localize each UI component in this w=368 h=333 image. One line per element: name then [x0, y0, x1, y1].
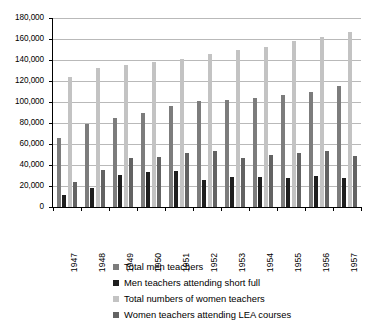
bar-group-1957 [333, 18, 361, 207]
y-axis: 020,00040,00060,00080,000100,000120,0001… [0, 12, 48, 208]
bar [292, 41, 296, 207]
y-axis-tick-label: 40,000 [20, 161, 44, 169]
x-axis-tick-label: 1947 [70, 253, 79, 272]
y-axis-tick-label: 80,000 [20, 119, 44, 127]
bar-group-1948 [81, 18, 109, 207]
y-axis-tick-label: 140,000 [15, 56, 44, 64]
bar [253, 98, 257, 207]
bar [348, 32, 352, 207]
bar [314, 176, 318, 207]
bar [342, 178, 346, 207]
bar [90, 188, 94, 207]
bar [57, 138, 61, 207]
bar [202, 180, 206, 207]
legend-swatch-women-lea-courses [113, 312, 119, 318]
bar [62, 195, 66, 207]
bar [152, 62, 156, 207]
legend-item[interactable]: Total numbers of women teachers [113, 291, 363, 307]
bar-group-1947 [53, 18, 81, 207]
bar [325, 151, 329, 207]
legend-item[interactable]: Women teachers attending LEA courses [113, 307, 363, 323]
y-axis-tick-label: 60,000 [20, 140, 44, 148]
bar [337, 86, 341, 207]
bar-group-1953 [221, 18, 249, 207]
legend-label: Women teachers attending LEA courses [124, 310, 291, 320]
bar [320, 37, 324, 207]
bar [146, 172, 150, 207]
bar [73, 182, 77, 207]
bar-group-1949 [109, 18, 137, 207]
x-axis: 1947194819491950195119521953195419551956… [52, 209, 360, 255]
bar [281, 95, 285, 207]
x-axis-tick [361, 207, 362, 211]
bar [230, 177, 234, 207]
bar-group-1952 [193, 18, 221, 207]
x-axis-tick-label: 1948 [98, 253, 107, 272]
legend-swatch-total-women-teachers [113, 296, 119, 302]
bar [185, 153, 189, 207]
bars-layer [53, 18, 361, 207]
bar-group-1954 [249, 18, 277, 207]
y-axis-tick-label: 100,000 [15, 98, 44, 106]
bar [286, 178, 290, 207]
bar [124, 65, 128, 207]
legend-label: Total numbers of women teachers [124, 294, 265, 304]
y-axis-tick-label: 0 [40, 203, 44, 211]
bar [174, 171, 178, 207]
bar [213, 151, 217, 207]
bar [197, 101, 201, 207]
bar [236, 50, 240, 208]
bar [208, 54, 212, 207]
chart-legend: Total men teachersMen teachers attending… [113, 259, 363, 323]
bar [241, 158, 245, 207]
legend-swatch-total-men-teachers [113, 264, 119, 270]
bar [118, 175, 122, 207]
bar [353, 156, 357, 207]
bar-group-1950 [137, 18, 165, 207]
legend-label: Total men teachers [124, 262, 203, 272]
bar [68, 77, 72, 207]
bar [129, 158, 133, 207]
bar [113, 118, 117, 207]
bar [180, 59, 184, 207]
y-axis-tick-label: 20,000 [20, 182, 44, 190]
bar [258, 177, 262, 207]
legend-swatch-men-short-full [113, 280, 119, 286]
bar [157, 157, 161, 207]
plot-wrapper: 020,00040,00060,00080,000100,000120,0001… [0, 0, 368, 212]
bar [169, 106, 173, 207]
bar [141, 113, 145, 208]
y-axis-tick-label: 180,000 [15, 14, 44, 22]
bar [96, 68, 100, 207]
bar [309, 92, 313, 208]
bar [101, 170, 105, 207]
y-axis-tick-label: 160,000 [15, 35, 44, 43]
bar [297, 153, 301, 207]
bar [264, 47, 268, 207]
bar-group-1951 [165, 18, 193, 207]
bar [225, 100, 229, 207]
plot-area [52, 18, 361, 208]
bar-group-1956 [305, 18, 333, 207]
bar [85, 124, 89, 207]
legend-label: Men teachers attending short full [124, 278, 260, 288]
bar [269, 155, 273, 208]
legend-item[interactable]: Total men teachers [113, 259, 363, 275]
bar-chart: 020,00040,00060,00080,000100,000120,0001… [0, 0, 368, 333]
bar-group-1955 [277, 18, 305, 207]
legend-item[interactable]: Men teachers attending short full [113, 275, 363, 291]
y-axis-tick-label: 120,000 [15, 77, 44, 85]
